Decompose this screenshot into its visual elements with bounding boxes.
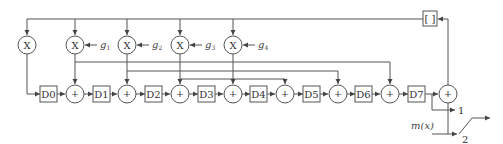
svg-text:D2: D2 [146,89,160,100]
encoder-diagram: [ ] X X g1 X g2 X g3 X g4 [0,0,503,144]
multiplier-g2: X g2 [118,36,162,54]
svg-text:[ ]: [ ] [425,13,436,24]
svg-text:2: 2 [462,134,468,144]
svg-text:g2: g2 [152,39,162,51]
svg-text:X: X [71,40,79,51]
svg-text:+: + [229,88,237,99]
svg-text:X: X [229,40,237,51]
svg-text:X: X [123,40,131,51]
svg-text:D1: D1 [94,89,108,100]
feedback-bus [27,19,423,35]
svg-text:D7: D7 [409,89,423,100]
multiplier-g1: X g1 [66,36,110,54]
svg-text:D6: D6 [356,89,370,100]
svg-text:g4: g4 [258,39,268,51]
svg-text:X: X [23,40,31,51]
svg-text:X: X [176,40,184,51]
svg-text:+: + [281,88,289,99]
svg-text:D4: D4 [251,89,265,100]
svg-text:+: + [71,88,79,99]
feedback-block: [ ] [423,11,448,85]
svg-text:+: + [334,88,342,99]
svg-text:1: 1 [458,105,464,116]
delay-chain: D0 + D1 + D2 + D3 + D4 + D5 [40,85,457,103]
svg-text:m(x): m(x) [411,120,434,131]
svg-text:+: + [386,88,394,99]
svg-text:D3: D3 [199,89,213,100]
svg-text:+: + [176,88,184,99]
multiplier-g4: X g4 [224,36,268,54]
svg-text:D5: D5 [304,89,318,100]
multiplier-g3: X g3 [171,36,215,54]
output-switch [459,118,472,134]
svg-text:+: + [444,88,452,99]
svg-text:D0: D0 [41,89,55,100]
svg-text:g1: g1 [100,39,110,51]
svg-text:+: + [123,88,131,99]
svg-text:g3: g3 [205,39,215,51]
multiplier-0: X [18,36,36,54]
